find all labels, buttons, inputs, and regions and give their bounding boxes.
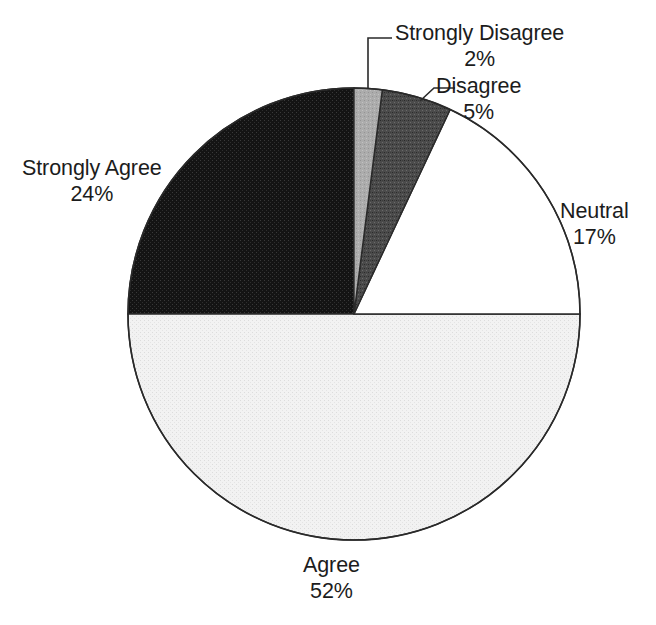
pie-label-neutral: Neutral 17% — [560, 198, 629, 250]
pie-label-disagree-name: Disagree — [436, 73, 521, 99]
pie-label-disagree-value: 5% — [436, 99, 521, 125]
pie-label-strongly-agree: Strongly Agree 24% — [22, 155, 162, 207]
pie-label-agree-value: 52% — [303, 578, 360, 604]
pie-slice-agree — [128, 314, 580, 540]
pie-chart-canvas — [0, 0, 656, 625]
pie-label-strongly-disagree-value: 2% — [395, 46, 564, 72]
pie-label-agree-name: Agree — [303, 552, 360, 578]
pie-label-strongly-agree-value: 24% — [22, 181, 162, 207]
pie-chart: Strongly Disagree 2% Disagree 5% Neutral… — [0, 0, 656, 625]
pie-label-disagree: Disagree 5% — [436, 73, 521, 125]
pie-slice-strongly-agree — [128, 88, 354, 314]
pie-label-neutral-value: 17% — [560, 224, 629, 250]
pie-label-strongly-disagree-name: Strongly Disagree — [395, 20, 564, 46]
pie-label-agree: Agree 52% — [303, 552, 360, 604]
pie-label-neutral-name: Neutral — [560, 198, 629, 224]
leader-line-strongly-disagree — [368, 38, 392, 89]
pie-label-strongly-agree-name: Strongly Agree — [22, 155, 162, 181]
pie-label-strongly-disagree: Strongly Disagree 2% — [395, 20, 564, 72]
